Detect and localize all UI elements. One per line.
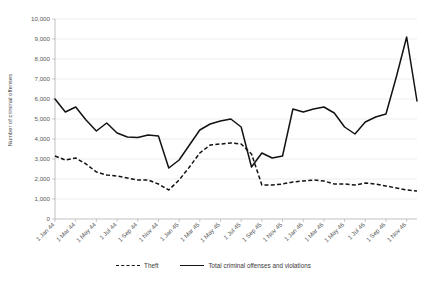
y-tick-label: 9,000 (35, 35, 51, 42)
legend-item-theft: Theft (116, 262, 158, 269)
legend-label-total: Total criminal offenses and violations (208, 262, 310, 269)
plot-area: 01,0002,0003,0004,0005,0006,0007,0008,00… (0, 0, 427, 262)
y-tick-label: 4,000 (35, 135, 51, 142)
x-tick-label: 1 Jul 44 (98, 220, 118, 240)
x-tick-label: 1 Jul 45 (222, 220, 242, 240)
x-tick-label: 1 Sep 45 (240, 220, 263, 243)
x-tick-label: 1 May 46 (323, 220, 346, 243)
x-tick-label: 1 Sep 44 (116, 220, 139, 243)
x-tick-label: 1 Mar 44 (54, 220, 76, 242)
x-tick-label: 1 May 44 (74, 220, 97, 243)
x-tick-label: 1 Mar 46 (303, 220, 325, 242)
x-tick-label: 1 Mar 45 (179, 220, 201, 242)
y-tick-label: 10,000 (31, 15, 50, 22)
y-tick-label: 3,000 (35, 155, 51, 162)
legend-swatch-solid-icon (180, 265, 204, 266)
y-tick-label: 2,000 (35, 175, 51, 182)
x-tick-label: 1 May 45 (199, 220, 222, 243)
x-tick-label: 1 Nov 46 (385, 220, 408, 243)
y-axis-ticks: 01,0002,0003,0004,0005,0006,0007,0008,00… (31, 15, 55, 222)
x-tick-label: 1 Jan 44 (34, 220, 56, 242)
gridlines (55, 19, 417, 199)
x-tick-label: 1 Jan 46 (282, 220, 304, 242)
y-tick-label: 1,000 (35, 195, 51, 202)
legend-label-theft: Theft (144, 262, 158, 269)
chart-legend: Theft Total criminal offenses and violat… (0, 262, 427, 269)
line-chart: Number of criminal offenses 01,0002,0003… (0, 0, 427, 285)
legend-swatch-dashed-icon (116, 265, 140, 266)
x-axis-ticks: 1 Jan 441 Mar 441 May 441 Jul 441 Sep 44… (34, 219, 408, 243)
x-tick-label: 1 Sep 46 (364, 220, 387, 243)
legend-item-total: Total criminal offenses and violations (180, 262, 310, 269)
x-tick-label: 1 Nov 44 (137, 220, 160, 243)
x-tick-label: 1 Jan 45 (158, 220, 180, 242)
x-tick-label: 1 Nov 45 (261, 220, 284, 243)
y-tick-label: 6,000 (35, 95, 51, 102)
y-tick-label: 7,000 (35, 75, 51, 82)
series-line-theft (55, 143, 417, 191)
y-tick-label: 8,000 (35, 55, 51, 62)
series-line-total (55, 37, 417, 168)
y-tick-label: 5,000 (35, 115, 51, 122)
x-tick-label: 1 Jul 46 (346, 220, 366, 240)
